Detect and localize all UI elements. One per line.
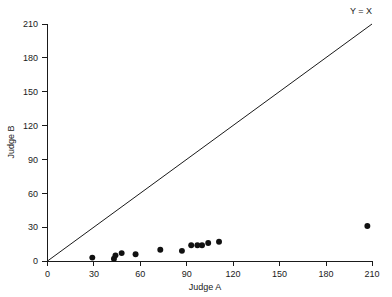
- data-point: [199, 242, 205, 248]
- x-tick-label: 210: [364, 269, 379, 279]
- x-tick-label: 180: [318, 269, 333, 279]
- plot-canvas: 0 30 60 90 120 150 180 210 0 30 60 90 12…: [0, 0, 392, 297]
- y-tick-label: 30: [28, 222, 38, 232]
- y-tick-label: 60: [28, 189, 38, 199]
- x-axis-title: Judge A: [189, 282, 222, 292]
- data-point: [216, 239, 222, 245]
- data-point: [157, 247, 163, 253]
- x-tick-label: 60: [135, 269, 145, 279]
- data-point: [364, 223, 370, 229]
- identity-line: [48, 24, 373, 261]
- y-axis-title: Judge B: [6, 125, 16, 158]
- data-point: [179, 248, 185, 254]
- x-tick-label: 90: [182, 269, 192, 279]
- scatter-chart-figure: 0 30 60 90 120 150 180 210 0 30 60 90 12…: [0, 0, 392, 297]
- data-point: [133, 251, 139, 257]
- data-point: [188, 242, 194, 248]
- y-tick-label: 90: [28, 155, 38, 165]
- x-axis-tick-labels: 0 30 60 90 120 150 180 210: [45, 269, 380, 279]
- data-points-layer: [89, 223, 370, 262]
- data-point: [119, 250, 125, 256]
- x-tick-label: 150: [272, 269, 287, 279]
- y-tick-label: 150: [23, 87, 38, 97]
- data-point: [113, 252, 119, 258]
- identity-line-label: Y = X: [350, 6, 372, 16]
- y-tick-label: 180: [23, 53, 38, 63]
- x-tick-label: 0: [45, 269, 50, 279]
- y-axis-ticks: [42, 24, 47, 261]
- x-tick-label: 30: [89, 269, 99, 279]
- data-point: [205, 240, 211, 246]
- y-tick-label: 210: [23, 19, 38, 29]
- y-tick-label: 0: [33, 256, 38, 266]
- data-point: [89, 255, 95, 261]
- x-tick-label: 120: [226, 269, 241, 279]
- y-axis-tick-labels: 0 30 60 90 120 150 180 210: [23, 19, 38, 266]
- y-tick-label: 120: [23, 121, 38, 131]
